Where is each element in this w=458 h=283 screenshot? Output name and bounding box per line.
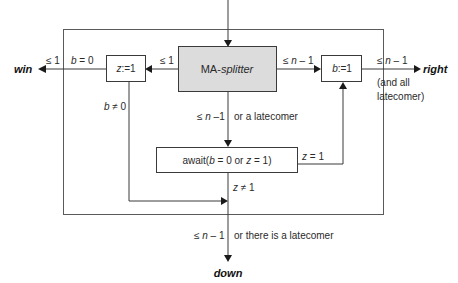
arrowhead-down-icon xyxy=(224,140,232,147)
arrowhead-right-icon xyxy=(414,65,421,73)
label-le1-splitter-left: ≤ 1 xyxy=(160,55,174,66)
arrowhead-down-icon xyxy=(224,40,232,47)
label-or-latecomer: or a latecomer xyxy=(234,111,299,122)
arrowhead-right-icon xyxy=(314,65,321,73)
label-le-n-1-splitter-right: ≤ n – 1 xyxy=(283,55,314,66)
label-le1-win: ≤ 1 xyxy=(46,55,60,66)
label-z-eq-1: z = 1 xyxy=(301,151,324,162)
label-b-ne-0: b ≠ 0 xyxy=(104,101,127,112)
right-note-line2: latecomer) xyxy=(377,91,424,102)
arrowhead-left-icon xyxy=(145,65,152,73)
right-note-line1: (and all xyxy=(377,77,410,88)
splitter-diagram: MA-splitter ≤ 1 z:=1 win ≤ 1 b = 0 b ≠ 0… xyxy=(0,0,458,283)
output-win: win xyxy=(14,63,33,75)
label-z-ne-1: z ≠ 1 xyxy=(232,182,255,193)
b-assign-label: b:=1 xyxy=(332,63,352,74)
arrowhead-up-icon xyxy=(339,82,347,89)
output-right: right xyxy=(423,63,449,75)
z-assign-label: z:=1 xyxy=(115,63,136,74)
arrowhead-down-icon xyxy=(224,255,232,262)
label-le-n-1-right: ≤ n – 1 xyxy=(377,55,408,66)
label-b-eq-0: b = 0 xyxy=(71,55,94,66)
label-or-there-is-latecomer: or there is a latecomer xyxy=(234,230,334,241)
await-label: await(b = 0 or z = 1) xyxy=(183,155,272,166)
ma-splitter-label: MA-splitter xyxy=(201,63,255,75)
label-le-n-1-center: ≤ n –1 xyxy=(197,111,225,122)
arrowhead-right-icon xyxy=(221,197,228,205)
arrowhead-left-icon xyxy=(38,65,46,73)
label-le-n-1-bottom: ≤ n – 1 xyxy=(194,230,225,241)
output-down: down xyxy=(214,267,243,279)
